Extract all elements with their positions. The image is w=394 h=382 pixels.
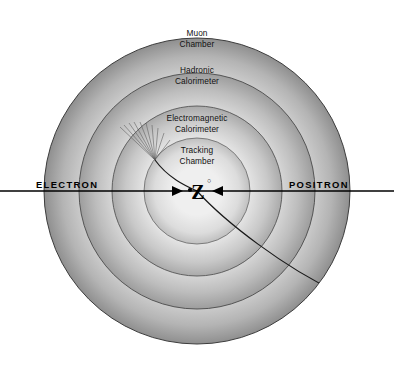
electromagnetic-calorimeter-label-line2: Calorimeter [175,124,219,134]
electron-beam-label: ELECTRON [36,179,98,190]
z-boson-superscript: ○ [207,177,211,184]
z-boson-label: Z [191,181,204,203]
positron-beam-label: POSITRON [289,179,349,190]
electromagnetic-calorimeter-label-line1: Electromagnetic [167,113,228,123]
muon-chamber-label-line2: Chamber [180,39,215,49]
hadronic-calorimeter-label-line1: Hadronic [180,65,214,75]
muon-chamber-label-line1: Muon [186,28,207,38]
detector-cross-section-diagram: Z ○ ELECTRON POSITRON Muon Chamber Hadro… [0,0,394,382]
tracking-chamber-label-line1: Tracking [181,145,214,155]
tracking-chamber-label-line2: Chamber [180,156,215,166]
hadronic-calorimeter-label-line2: Calorimeter [175,76,219,86]
